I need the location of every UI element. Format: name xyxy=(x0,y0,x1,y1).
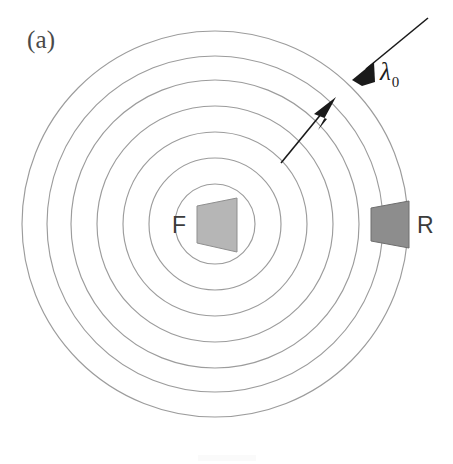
source-label-f: F xyxy=(172,212,186,238)
receiver-shape-r xyxy=(371,201,409,248)
bottom-artifact xyxy=(198,455,256,461)
lambda-subscript: 0 xyxy=(392,74,400,90)
wavefront-diagram: (a) F R λ0 xyxy=(0,0,453,464)
receiver-label-r: R xyxy=(417,212,434,238)
source-shape-f xyxy=(197,198,237,252)
figure-panel-a: (a) F R λ0 xyxy=(0,0,453,464)
panel-label: (a) xyxy=(27,26,55,54)
lambda-glyph: λ xyxy=(379,58,391,85)
